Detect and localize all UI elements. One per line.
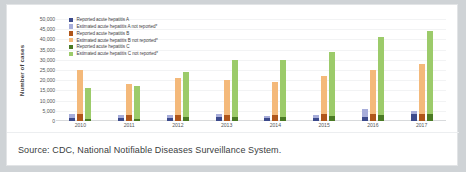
- y-axis-tick-label: 0: [52, 118, 55, 124]
- bar-segment-estimated: [427, 31, 433, 114]
- figure-frame: Number of cases 50,00045,00040,00035,000…: [6, 4, 458, 166]
- stacked-bar[interactable]: [378, 37, 384, 121]
- legend-item[interactable]: Reported acute hepatitis B: [69, 31, 158, 37]
- bar-segment-reported: [183, 117, 189, 121]
- y-axis-tick-label: 30,000: [40, 57, 55, 63]
- bar-segment-reported: [321, 114, 327, 121]
- bar-segment-estimated: [126, 84, 132, 115]
- bar-segment-reported: [280, 117, 286, 121]
- legend-item[interactable]: Estimated acute hepatitis B not reported…: [69, 37, 158, 43]
- stacked-bar[interactable]: [175, 78, 181, 121]
- x-axis-tick-label: 2013: [221, 122, 232, 128]
- stacked-bar[interactable]: [362, 109, 368, 121]
- bar-group: [251, 19, 300, 121]
- legend-item-label: Reported acute hepatitis A: [76, 17, 129, 22]
- y-axis-tick-label: 45,000: [40, 26, 55, 32]
- x-axis-tick-label: 2011: [124, 122, 135, 128]
- bar-segment-reported: [134, 119, 140, 122]
- bar-segment-estimated: [370, 70, 376, 114]
- bar-segment-reported: [216, 117, 222, 121]
- y-axis-tick-label: 5,000: [43, 108, 56, 114]
- bar-segment-estimated: [280, 60, 286, 117]
- y-axis-tick-label: 40,000: [40, 36, 55, 42]
- y-axis-tick-label: 25,000: [40, 67, 55, 73]
- bar-segment-reported: [126, 115, 132, 121]
- bar-segment-estimated: [419, 64, 425, 114]
- bar-group: [349, 19, 398, 121]
- bar-segment-estimated: [362, 109, 368, 117]
- stacked-bar[interactable]: [183, 72, 189, 121]
- bar-segment-reported: [118, 118, 124, 121]
- bar-segment-reported: [378, 115, 384, 121]
- bar-segment-estimated: [321, 76, 327, 114]
- legend-item[interactable]: Estimated acute hepatitis A not reported…: [69, 24, 158, 30]
- y-axis-tick-label: 10,000: [40, 98, 55, 104]
- stacked-bar[interactable]: [272, 82, 278, 121]
- stacked-bar[interactable]: [224, 80, 230, 121]
- chart-area: Number of cases 50,00045,00040,00035,000…: [7, 5, 459, 133]
- stacked-bar[interactable]: [126, 84, 132, 121]
- legend-swatch-icon: [69, 24, 73, 28]
- bar-segment-reported: [264, 118, 270, 121]
- stacked-bar[interactable]: [232, 60, 238, 121]
- y-axis-tick-labels: 50,00045,00040,00035,00030,00025,00020,0…: [27, 19, 55, 121]
- stacked-bar[interactable]: [411, 111, 417, 121]
- legend-swatch-icon: [69, 18, 73, 22]
- bar-segment-estimated: [378, 37, 384, 115]
- bar-segment-reported: [167, 118, 173, 121]
- bar-segment-reported: [77, 114, 83, 121]
- stacked-bar[interactable]: [216, 114, 222, 121]
- figure-caption-text: Source: CDC, National Notifiable Disease…: [7, 145, 281, 155]
- x-axis-tick-label: 2015: [318, 122, 329, 128]
- stacked-bar[interactable]: [167, 115, 173, 121]
- stacked-bar[interactable]: [118, 115, 124, 121]
- bar-segment-estimated: [272, 82, 278, 115]
- bar-segment-reported: [85, 119, 91, 121]
- x-axis-tick-label: 2014: [270, 122, 281, 128]
- legend-item[interactable]: Reported acute hepatitis A: [69, 17, 158, 23]
- bar-group: [300, 19, 349, 121]
- y-axis-tick-label: 35,000: [40, 47, 55, 53]
- x-axis-tick-label: 2012: [172, 122, 183, 128]
- legend-swatch-icon: [69, 52, 73, 56]
- stacked-bar[interactable]: [313, 115, 319, 121]
- y-axis-title-label: Number of cases: [19, 44, 26, 95]
- legend-item-label: Reported acute hepatitis C: [76, 44, 129, 49]
- bar-segment-estimated: [224, 80, 230, 115]
- bar-segment-estimated: [77, 70, 83, 114]
- bar-segment-reported: [313, 118, 319, 121]
- y-axis-tick-label: 50,000: [40, 16, 55, 22]
- bar-group: [202, 19, 251, 121]
- stacked-bar[interactable]: [264, 116, 270, 121]
- legend-item-label: Estimated acute hepatitis B not reported…: [76, 38, 157, 43]
- stacked-bar[interactable]: [329, 52, 335, 121]
- bar-segment-reported: [224, 115, 230, 121]
- x-axis-tick-label: 2017: [416, 122, 427, 128]
- stacked-bar[interactable]: [77, 70, 83, 121]
- legend-item[interactable]: Estimated acute hepatitis C not reported…: [69, 51, 158, 57]
- stacked-bar[interactable]: [419, 64, 425, 121]
- legend-item-label: Estimated acute hepatitis C not reported…: [76, 51, 158, 56]
- bar-segment-reported: [272, 115, 278, 121]
- stacked-bar[interactable]: [370, 70, 376, 121]
- stacked-bar[interactable]: [85, 88, 91, 121]
- stacked-bar[interactable]: [280, 60, 286, 121]
- legend-item-label: Reported acute hepatitis B: [76, 31, 129, 36]
- bar-segment-estimated: [329, 52, 335, 116]
- bar-segment-estimated: [232, 60, 238, 117]
- bar-segment-reported: [419, 114, 425, 121]
- legend-swatch-icon: [69, 31, 73, 35]
- legend-item-label: Estimated acute hepatitis A not reported…: [76, 24, 157, 29]
- stacked-bar[interactable]: [134, 86, 140, 121]
- legend-item[interactable]: Reported acute hepatitis C: [69, 44, 158, 50]
- bar-group: [397, 19, 446, 121]
- legend-swatch-icon: [69, 45, 73, 49]
- y-axis-tick-label: 15,000: [40, 87, 55, 93]
- y-axis-tick-label: 20,000: [40, 77, 55, 83]
- bar-segment-reported: [411, 114, 417, 121]
- stacked-bar[interactable]: [321, 76, 327, 121]
- stacked-bar[interactable]: [69, 114, 75, 121]
- stacked-bar[interactable]: [427, 31, 433, 121]
- bar-segment-reported: [370, 114, 376, 121]
- x-axis-tick-label: 2010: [75, 122, 86, 128]
